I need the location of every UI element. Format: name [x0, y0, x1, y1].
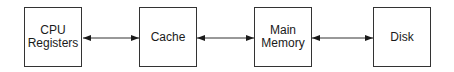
node-cache: Cache — [139, 7, 197, 67]
memory-hierarchy-diagram: CPU Registers Cache Main Memory Disk — [0, 0, 454, 72]
node-label-line: Registers — [28, 37, 79, 50]
node-cpu-registers: CPU Registers — [24, 7, 82, 67]
node-main-memory: Main Memory — [254, 7, 312, 67]
node-label-line: Memory — [261, 37, 304, 50]
node-label-line: Disk — [390, 31, 413, 44]
node-label-line: Cache — [151, 31, 186, 44]
node-disk: Disk — [373, 7, 431, 67]
